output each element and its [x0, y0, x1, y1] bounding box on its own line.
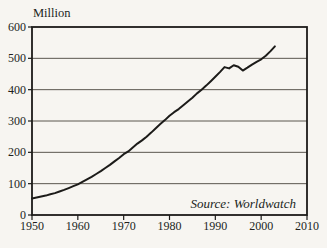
- x-tick-label: 1980: [158, 219, 182, 233]
- y-tick-label: 500: [8, 51, 26, 65]
- x-tick-label: 1990: [203, 219, 227, 233]
- gridlines: [32, 58, 307, 183]
- x-tick-label: 1970: [112, 219, 136, 233]
- x-tick-label: 2010: [295, 219, 319, 233]
- data-line: [32, 46, 275, 198]
- y-axis-ticks: 0100200300400500600: [8, 20, 32, 222]
- y-axis-unit-label: Million: [33, 6, 71, 20]
- y-tick-label: 400: [8, 83, 26, 97]
- source-note: Source: Worldwatch: [190, 196, 296, 211]
- y-tick-label: 200: [8, 145, 26, 159]
- x-tick-label: 1960: [66, 219, 90, 233]
- y-tick-label: 100: [8, 177, 26, 191]
- x-tick-label: 1950: [20, 219, 44, 233]
- x-tick-label: 2000: [249, 219, 273, 233]
- line-chart: 0100200300400500600 19501960197019801990…: [0, 0, 327, 248]
- chart-figure: 0100200300400500600 19501960197019801990…: [0, 0, 327, 248]
- y-tick-label: 300: [8, 114, 26, 128]
- y-tick-label: 600: [8, 20, 26, 34]
- x-axis-ticks: 1950196019701980199020002010: [20, 215, 319, 233]
